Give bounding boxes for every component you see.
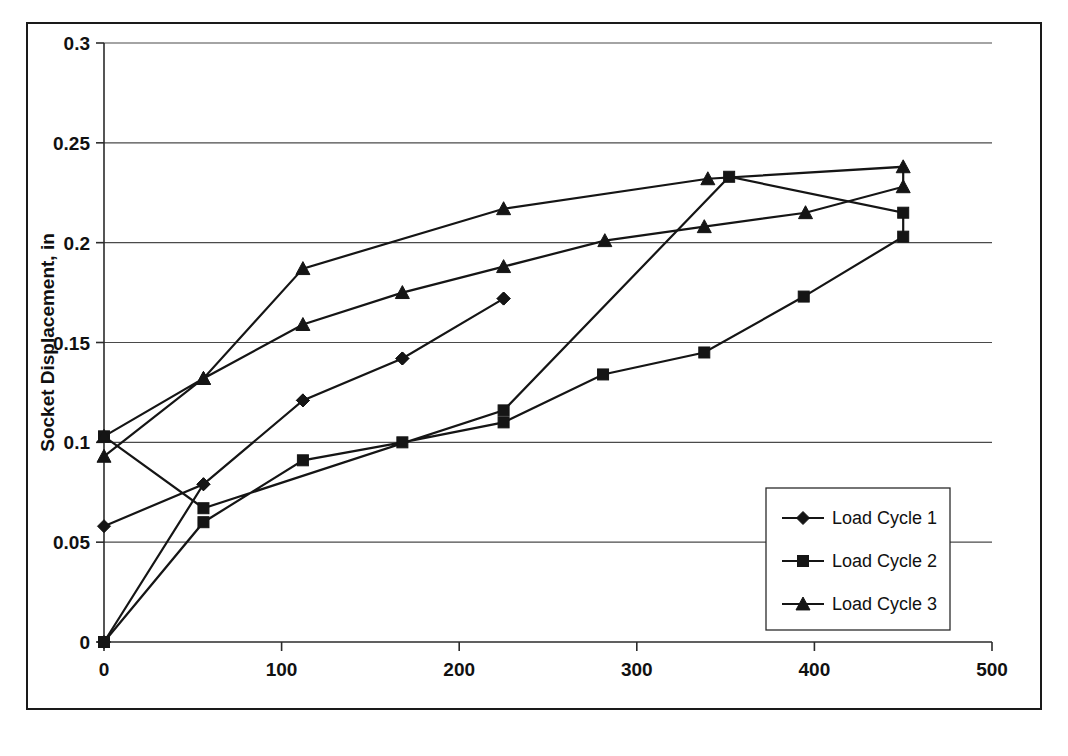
x-tick-label: 300 (621, 659, 653, 680)
series-marker-square (198, 503, 209, 514)
series-marker-triangle (896, 180, 910, 193)
legend-label: Load Cycle 3 (832, 594, 937, 614)
x-tick-label: 0 (99, 659, 110, 680)
series-line-diamond (104, 299, 504, 642)
chart-svg: 00.050.10.150.20.250.30100200300400500Te… (28, 24, 1040, 708)
y-tick-label: 0 (79, 632, 90, 653)
series-marker-square (99, 637, 110, 648)
legend-label: Load Cycle 2 (832, 551, 937, 571)
series-marker-square (898, 207, 909, 218)
x-tick-label: 500 (976, 659, 1008, 680)
series-marker-square (724, 171, 735, 182)
series-marker-diamond (497, 292, 510, 305)
y-axis-title: Socket Displacement, in (37, 233, 58, 452)
x-tick-label: 400 (799, 659, 831, 680)
series-marker-square (798, 291, 809, 302)
x-tick-label: 100 (266, 659, 298, 680)
series-marker-square (198, 517, 209, 528)
series-marker-square (498, 417, 509, 428)
legend-marker-square (798, 556, 809, 567)
series-marker-square (598, 369, 609, 380)
x-axis-title: Tension Load, kips (463, 707, 634, 708)
y-tick-label: 0.25 (53, 133, 90, 154)
series-marker-square (898, 231, 909, 242)
y-tick-label: 0.3 (64, 33, 90, 54)
y-tick-label: 0.1 (64, 432, 91, 453)
figure-frame: 00.050.10.150.20.250.30100200300400500Te… (26, 22, 1042, 710)
y-tick-label: 0.15 (53, 333, 90, 354)
page-root: 00.050.10.150.20.250.30100200300400500Te… (0, 0, 1068, 756)
series-marker-diamond (396, 352, 409, 365)
y-tick-label: 0.05 (53, 532, 90, 553)
series-marker-square (397, 437, 408, 448)
y-tick-label: 0.2 (64, 233, 90, 254)
series-marker-square (297, 455, 308, 466)
series-marker-square (498, 405, 509, 416)
series-marker-diamond (98, 520, 111, 533)
x-tick-label: 200 (443, 659, 475, 680)
legend-label: Load Cycle 1 (832, 508, 937, 528)
series-marker-square (699, 347, 710, 358)
